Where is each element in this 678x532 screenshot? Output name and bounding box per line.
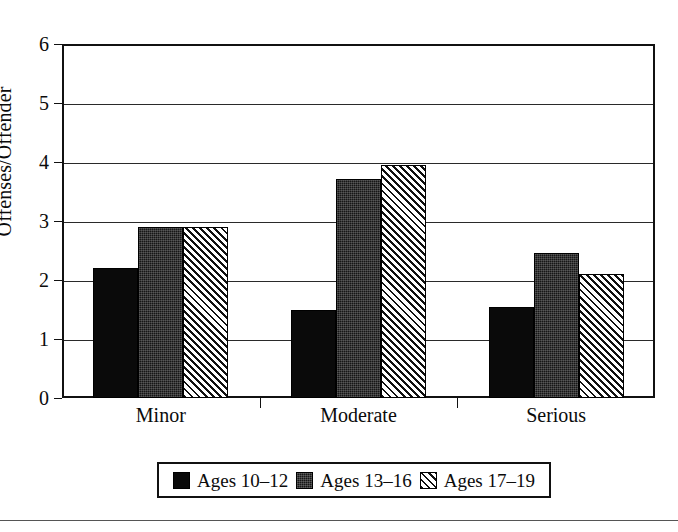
y-tick-mark-1 — [54, 339, 62, 340]
bottom-divider — [0, 520, 678, 521]
y-tick-label-0: 0 — [0, 388, 62, 408]
y-tick-label-3: 3 — [0, 211, 62, 231]
y-tick-label-2: 2 — [0, 270, 62, 290]
bar-serious-series-1 — [489, 307, 534, 398]
chart-legend: Ages 10–12Ages 13–16Ages 17–19 — [157, 462, 551, 498]
y-tick-mark-4 — [54, 162, 62, 163]
x-category-label-minor: Minor — [61, 404, 261, 427]
legend-label-3: Ages 17–19 — [444, 471, 535, 490]
y-tick-label-5: 5 — [0, 93, 62, 113]
x-category-label-serious: Serious — [456, 404, 656, 427]
y-tick-mark-5 — [54, 103, 62, 104]
bar-moderate-series-1 — [291, 310, 336, 399]
y-tick-mark-2 — [54, 280, 62, 281]
bar-minor-series-1 — [93, 268, 138, 398]
legend-label-2: Ages 13–16 — [320, 471, 411, 490]
bar-minor-series-2 — [138, 227, 183, 398]
y-axis-ticks: 0123456 — [0, 0, 62, 354]
bar-serious-series-3 — [579, 274, 624, 398]
bars-layer — [62, 44, 655, 398]
legend-label-1: Ages 10–12 — [197, 471, 288, 490]
legend-entry-2: Ages 13–16 — [296, 471, 411, 490]
y-tick-mark-0 — [54, 398, 62, 399]
legend-swatch-1 — [173, 472, 190, 489]
legend-entry-1: Ages 10–12 — [173, 471, 288, 490]
bar-moderate-series-3 — [381, 165, 426, 398]
y-tick-label-4: 4 — [0, 152, 62, 172]
y-tick-mark-3 — [54, 221, 62, 222]
y-tick-label-6: 6 — [0, 34, 62, 54]
bar-serious-series-2 — [534, 253, 579, 398]
bar-moderate-series-2 — [336, 179, 381, 398]
bar-chart-figure: Offenses/Offender 0123456 MinorModerateS… — [0, 0, 678, 532]
x-category-label-moderate: Moderate — [259, 404, 459, 427]
legend-entry-3: Ages 17–19 — [420, 471, 535, 490]
legend-swatch-2 — [296, 472, 313, 489]
y-tick-mark-6 — [54, 44, 62, 45]
bar-minor-series-3 — [183, 227, 228, 398]
y-tick-label-1: 1 — [0, 329, 62, 349]
legend-swatch-3 — [420, 472, 437, 489]
